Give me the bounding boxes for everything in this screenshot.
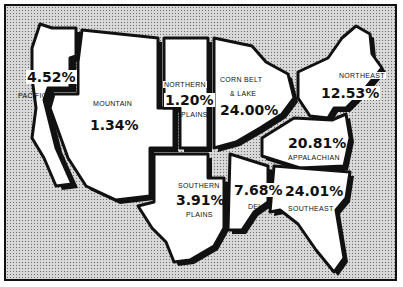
mountain-value: 1.34%: [90, 118, 139, 132]
delta-label: DELTA: [248, 203, 271, 210]
corn-belt-value: 24.00%: [220, 103, 278, 117]
southern-plains-label-line1: SOUTHERN: [178, 182, 220, 189]
northeast-value: 12.53%: [320, 86, 380, 100]
appalachian-label: APPALACHIAN: [288, 154, 340, 161]
pacific-value: 4.52%: [26, 70, 77, 84]
corn-belt-label-line2: & LAKE: [230, 90, 256, 97]
appalachian-value: 20.81%: [288, 136, 346, 150]
delta-value: 7.68%: [233, 183, 284, 197]
southeast-value: 24.01%: [284, 184, 344, 198]
pacific-label: PACIFIC: [18, 92, 47, 99]
northeast-label: NORTHEAST: [338, 72, 386, 79]
southern-plains-value: 3.91%: [176, 193, 225, 207]
map-frame: 4.52% PACIFIC MOUNTAIN 1.34% NORTHERN 1.…: [4, 4, 397, 281]
southeast-label: SOUTHEAST: [288, 205, 333, 212]
corn-belt-label-line1: CORN BELT: [220, 76, 262, 83]
mountain-label: MOUNTAIN: [93, 100, 132, 107]
northern-plains-label-line2: PLAINS: [181, 111, 208, 118]
southern-plains-label-line2: PLAINS: [186, 211, 213, 218]
northern-plains-label-line1: NORTHERN: [163, 81, 207, 88]
northern-plains-value: 1.20%: [164, 93, 215, 107]
